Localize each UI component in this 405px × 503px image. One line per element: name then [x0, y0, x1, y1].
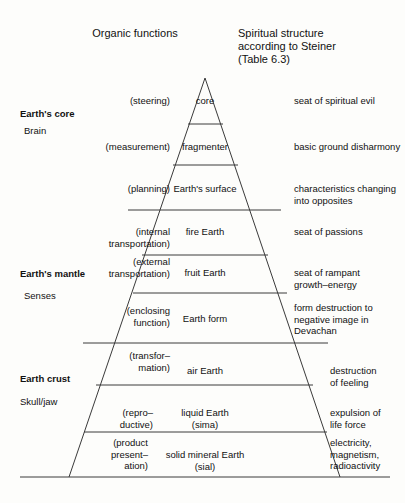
geology-label-earth-crust: Earth crust	[20, 373, 70, 385]
column-header-spiritual-line1: Spiritual structure	[238, 27, 398, 40]
organic-function-earths-surface: (planning)	[20, 183, 170, 195]
layer-name-fruit-earth: fruit Earth	[150, 267, 260, 279]
layer-name-core: core	[175, 95, 235, 107]
layer-name-earths-surface: Earth's surface	[150, 183, 260, 195]
spiritual-fruit-earth: seat of rampant growth–energy	[294, 267, 405, 290]
organic-function-fruit-earth: (external transportation)	[20, 256, 170, 279]
layer-name-fragmenter: fragmenter	[160, 141, 250, 153]
spiritual-core: seat of spiritual evil	[294, 95, 405, 107]
organic-function-liquid-earth: (repro– ductive)	[20, 407, 153, 430]
spiritual-air-earth: destruction of feeling	[330, 365, 405, 388]
layer-name-fire-earth: fire Earth	[150, 226, 260, 238]
column-header-spiritual-line2: according to Steiner	[238, 40, 398, 53]
spiritual-fragmenter: basic ground disharmony	[294, 141, 405, 153]
geology-label-senses: Senses	[24, 290, 56, 302]
layer-name-earth-form: Earth form	[150, 313, 260, 325]
organic-function-solid-mineral-earth: (product present– ation)	[20, 437, 148, 472]
organic-function-fire-earth: (internal transportation)	[20, 226, 170, 249]
layer-name-solid-mineral-earth: solid mineral Earth (sial)	[130, 449, 280, 472]
geology-label-skull-jaw: Skull/jaw	[20, 396, 58, 408]
geology-label-earths-core: Earth's core	[20, 108, 75, 120]
column-header-organic-functions: Organic functions	[55, 27, 215, 40]
spiritual-solid-mineral-earth: electricity, magnetism, radioactivity	[330, 437, 405, 472]
layer-name-liquid-earth: liquid Earth (sima)	[145, 407, 265, 430]
spiritual-earths-surface: characteristics changing into opposites	[294, 183, 405, 206]
geology-label-brain: Brain	[24, 125, 46, 137]
column-header-spiritual-line3: (Table 6.3)	[238, 53, 398, 66]
diagram-canvas: Organic functions Spiritual structure ac…	[0, 0, 405, 503]
organic-function-earth-form: (enclosing function)	[20, 305, 170, 328]
spiritual-liquid-earth: expulsion of life force	[330, 407, 405, 430]
organic-function-air-earth: (transfor– mation)	[20, 350, 170, 373]
spiritual-fire-earth: seat of passions	[294, 226, 405, 238]
layer-name-air-earth: air Earth	[150, 365, 260, 377]
organic-function-fragmenter: (measurement)	[20, 141, 170, 153]
spiritual-earth-form: form destruction to negative image in De…	[294, 302, 405, 337]
organic-function-core: (steering)	[20, 95, 170, 107]
